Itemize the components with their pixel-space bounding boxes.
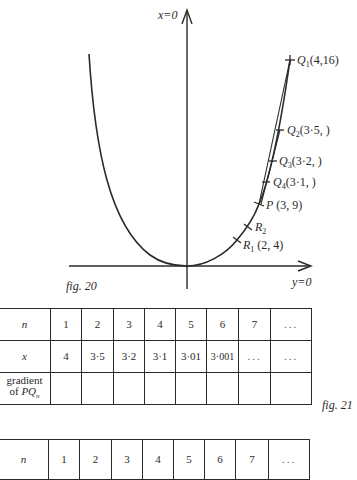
cell-n-3: 3 (112, 440, 143, 480)
cell-n-ellipsis: ... (269, 440, 310, 480)
cell-n-ellipsis: ... (271, 309, 312, 341)
table-row-x: x 4 3·5 3·2 3·1 3·01 3·001 ... ... (0, 341, 312, 373)
cell-n-4: 4 (145, 309, 176, 341)
table-row-n: n 1 2 3 4 5 6 7 ... (0, 440, 310, 480)
point-ticks (233, 55, 295, 243)
cell-n-6: 6 (205, 440, 236, 480)
figure-20-label: fig. 20 (66, 279, 97, 293)
point-label-r2: R2 (254, 220, 266, 236)
cell-x-6: 3·001 (207, 341, 239, 373)
cell-gradient-5 (176, 373, 207, 405)
point-label-q1: Q1(4,16) (297, 53, 339, 69)
parabola-curve (89, 54, 290, 266)
cell-gradient-2 (82, 373, 114, 405)
cell-x-3: 3·2 (114, 341, 145, 373)
cell-gradient-7 (239, 373, 271, 405)
cell-gradient-3 (114, 373, 145, 405)
cell-x-4: 3·1 (145, 341, 176, 373)
table-row-gradient: gradient of PQn (0, 373, 312, 405)
pq-label: PQ (21, 385, 36, 397)
horizontal-axis-label: y=0 (291, 275, 311, 289)
row-header-n: n (0, 440, 49, 480)
cell-n-6: 6 (207, 309, 239, 341)
cell-n-1: 1 (49, 440, 80, 480)
cell-x-7: ... (239, 341, 271, 373)
point-label-q3: Q3(3·2, ) (279, 154, 322, 170)
row-header-gradient: gradient of PQn (0, 373, 51, 405)
point-label-q4: Q4(3·1, ) (273, 175, 316, 191)
pq-subscript: n (36, 392, 40, 400)
cell-n-3: 3 (114, 309, 145, 341)
cell-gradient-4 (145, 373, 176, 405)
cell-n-1: 1 (51, 309, 82, 341)
second-table: n 1 2 3 4 5 6 7 ... (0, 439, 310, 480)
cell-x-1: 4 (51, 341, 82, 373)
vertical-axis-label: x=0 (157, 8, 177, 22)
cell-n-2: 2 (82, 309, 114, 341)
cell-gradient-ellipsis (271, 373, 312, 405)
gradient-table: n 1 2 3 4 5 6 7 ... x 4 3·5 3·2 3·1 3·01… (0, 308, 312, 405)
table-row-n: n 1 2 3 4 5 6 7 ... (0, 309, 312, 341)
figure-21-label: fig. 21 (322, 398, 353, 413)
cell-gradient-1 (51, 373, 82, 405)
cell-x-ellipsis: ... (271, 341, 312, 373)
gradient-of-label: of (9, 385, 21, 397)
row-header-x: x (0, 341, 51, 373)
cell-gradient-6 (207, 373, 239, 405)
cell-x-5: 3·01 (176, 341, 207, 373)
cell-n-5: 5 (174, 440, 205, 480)
cell-n-5: 5 (176, 309, 207, 341)
point-label-q2: Q2(3·5, ) (287, 123, 330, 139)
parabola-figure: x=0 y=0 fig. 20 Q1(4,16) Q2(3·5, ) Q3(3·… (0, 0, 357, 300)
cell-x-2: 3·5 (82, 341, 114, 373)
chord-pq2 (261, 130, 280, 204)
cell-n-2: 2 (80, 440, 112, 480)
point-label-r1: R1(2, 4) (242, 238, 283, 254)
cell-n-4: 4 (143, 440, 174, 480)
row-header-n: n (0, 309, 51, 341)
point-label-p: P(3, 9) (265, 198, 302, 212)
cell-n-7: 7 (236, 440, 269, 480)
cell-n-7: 7 (239, 309, 271, 341)
